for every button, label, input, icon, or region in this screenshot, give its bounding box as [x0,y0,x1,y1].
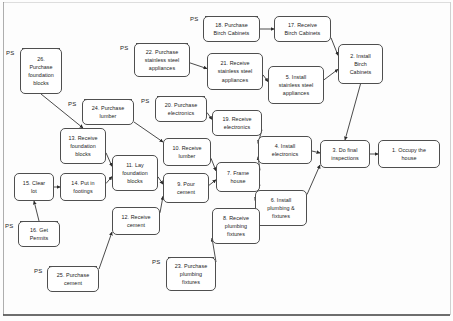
task-node-label: 23. Purchase plumbing fixtures [169,262,213,286]
connector-n26-to-n13 [41,94,83,128]
task-node-label: 20. Purchase electronics [158,101,204,117]
task-node-n6[interactable]: 6. Install plumbing & fixtures [255,190,307,226]
task-node-label: 26. Purchase foundation blocks [23,55,59,87]
task-node-label: 1. Occupy the house [381,146,437,162]
task-node-n13[interactable]: 13. Receive foundation blocks [60,128,106,164]
task-node-n14[interactable]: 14. Put in footings [60,173,106,201]
task-node-label: 17. Receive Birch Cabinets [277,21,328,37]
task-node-n15[interactable]: 15. Clear lot [14,173,54,201]
task-node-label: 2. Install Birch Cabinets [341,52,380,76]
connector-n2-to-n3 [345,84,361,140]
task-node-label: 12. Receive cement [115,213,157,229]
ps-start-tag-n22: PS [120,45,128,51]
ps-start-rule-n16 [20,221,58,222]
task-node-n8[interactable]: 8. Receive plumbing fixtures [212,208,260,244]
task-node-n20[interactable]: 20. Purchase electronics [155,96,207,122]
task-node-n25[interactable]: 25. Purchase cement [47,266,99,292]
task-node-n10[interactable]: 10. Receive lumber [163,138,211,166]
task-node-n7[interactable]: 7. Frame house [216,162,260,192]
task-node-n19[interactable]: 19. Receive electronics [212,110,262,136]
ps-start-tag-n23: PS [152,259,160,265]
ps-start-rule-n18 [205,16,258,17]
ps-start-tag-n26: PS [6,50,14,56]
ps-start-tag-n25: PS [34,268,42,274]
ps-start-rule-n24 [84,99,132,100]
connector-n24-to-n10 [134,122,163,142]
task-node-n23[interactable]: 23. Purchase plumbing fixtures [166,257,216,291]
task-node-n5[interactable]: 5. Install stainless steel appliances [268,66,324,104]
ps-start-rule-n26 [22,48,60,49]
ps-start-tag-n18: PS [190,16,198,22]
task-node-n2[interactable]: 2. Install Birch Cabinets [338,44,383,84]
task-node-n22[interactable]: 22. Purchase stainless steel appliances [134,43,190,77]
connector-n4-to-n3 [312,151,320,153]
connector-n9-to-n7 [209,180,216,186]
task-node-label: 8. Receive plumbing fixtures [215,214,257,238]
task-node-n11[interactable]: 11. Lay foundation blocks [112,155,158,191]
task-node-n24[interactable]: 24. Purchase lumber [82,99,134,125]
task-node-n1[interactable]: 1. Occupy the house [378,140,440,168]
connector-n16-to-n15 [34,201,39,221]
task-node-label: 22. Purchase stainless steel appliances [137,48,187,72]
task-node-label: 11. Lay foundation blocks [115,161,155,185]
task-node-label: 19. Receive electronics [215,115,259,131]
task-node-label: 5. Install stainless steel appliances [271,73,321,97]
connector-n22-to-n21 [190,63,207,69]
task-node-n9[interactable]: 9. Pour cement [163,173,209,203]
task-node-label: 6. Install plumbing & fixtures [258,196,304,220]
task-node-label: 7. Frame house [219,169,257,185]
task-node-n3[interactable]: 3. Do final inspections [320,140,370,168]
ps-start-rule-n23 [168,257,214,258]
connector-n25-to-n12 [99,232,112,269]
task-node-n18[interactable]: 18. Purchase Birch Cabinets [203,16,260,42]
connector-n17-to-n2 [331,38,338,56]
task-node-n26[interactable]: 26. Purchase foundation blocks [20,48,62,94]
task-node-label: 16. Get Permits [21,226,57,242]
task-node-label: 3. Do final inspections [323,146,367,162]
ps-start-tag-n16: PS [5,223,13,229]
ps-start-tag-n20: PS [141,98,149,104]
task-node-label: 9. Pour cement [166,180,206,196]
task-node-label: 10. Receive lumber [166,144,208,160]
diagram-page: 1. Occupy the house2. Install Birch Cabi… [0,0,453,321]
task-node-n16[interactable]: 16. Get Permits [18,221,60,247]
task-node-n4[interactable]: 4. Install electronics [258,136,312,164]
task-node-label: 14. Put in footings [63,179,103,195]
ps-start-rule-n20 [157,96,205,97]
task-node-label: 21. Receive stainless steel appliances [210,59,260,83]
connector-n5-to-n2 [324,69,338,80]
task-node-label: 18. Purchase Birch Cabinets [206,21,257,37]
task-node-label: 4. Install electronics [261,142,309,158]
task-node-label: 24. Purchase lumber [85,104,131,120]
ps-start-rule-n25 [49,266,97,267]
task-node-label: 13. Receive foundation blocks [63,134,103,158]
task-node-n17[interactable]: 17. Receive Birch Cabinets [274,16,331,42]
ps-start-tag-n24: PS [68,101,76,107]
task-node-n21[interactable]: 21. Receive stainless steel appliances [207,53,263,90]
task-node-label: 25. Purchase cement [50,271,96,287]
task-node-n12[interactable]: 12. Receive cement [112,207,160,235]
connector-n6-to-n3 [307,165,320,195]
ps-start-rule-n22 [136,43,188,44]
task-node-label: 15. Clear lot [17,179,51,195]
